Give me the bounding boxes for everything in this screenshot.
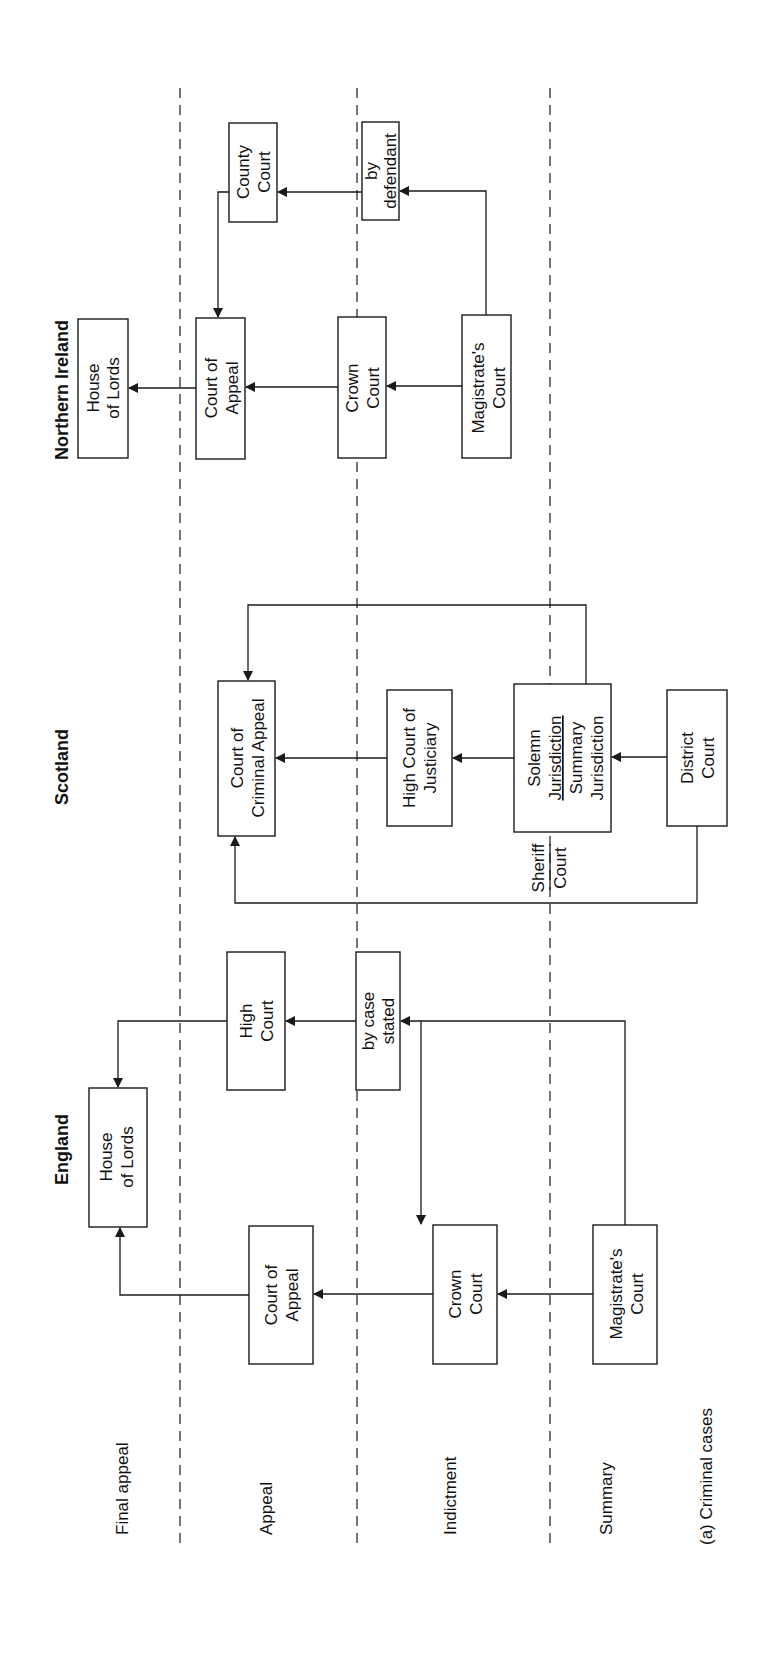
svg-text:Sheriff: Sheriff <box>529 843 548 892</box>
svg-text:Magistrate's: Magistrate's <box>607 1248 626 1339</box>
svg-text:Court: Court <box>490 367 509 409</box>
ni-by-defendant: by defendant <box>362 122 400 220</box>
arrow-court-of-appeal-to-house-of-lords <box>120 1228 249 1295</box>
arrow-magistrates-to-by-case-stated <box>401 1021 625 1225</box>
svg-text:Appeal: Appeal <box>283 1269 302 1322</box>
scotland-title: Scotland <box>52 729 72 805</box>
scotland-sheriff-court-label: Sheriff Court <box>529 843 570 892</box>
scotland-sheriff-court: Solemn Jurisdiction Summary Jurisdiction <box>514 684 611 832</box>
svg-text:County: County <box>234 145 253 199</box>
scotland-court-of-criminal-appeal: Court of Criminal Appeal <box>218 681 275 836</box>
svg-text:Summary: Summary <box>567 721 586 794</box>
svg-text:by: by <box>362 162 381 180</box>
svg-text:Criminal Appeal: Criminal Appeal <box>249 698 268 817</box>
england-by-case-stated: by case stated <box>356 952 400 1090</box>
svg-text:Court of: Court of <box>228 727 247 788</box>
svg-text:Justiciary: Justiciary <box>421 722 440 793</box>
scotland-high-court-of-justiciary: High Court of Justiciary <box>387 690 452 826</box>
lane-label-final-appeal: Final appeal <box>113 1442 132 1535</box>
svg-text:Appeal: Appeal <box>223 362 242 415</box>
svg-text:District: District <box>678 732 697 784</box>
svg-text:Court: Court <box>628 1273 647 1315</box>
arrow-ni-magistrates-to-by-defendant <box>400 191 486 315</box>
svg-text:High: High <box>237 1004 256 1039</box>
svg-text:Court: Court <box>364 367 383 409</box>
svg-text:of Lords: of Lords <box>104 357 123 418</box>
svg-text:Magistrate's: Magistrate's <box>469 342 488 433</box>
svg-text:Court: Court <box>551 847 570 889</box>
arrow-high-court-to-house-of-lords <box>118 1021 227 1087</box>
svg-text:House: House <box>97 1132 116 1181</box>
ni-house-of-lords: House of Lords <box>78 319 128 458</box>
svg-text:by case: by case <box>359 992 378 1051</box>
svg-text:defendant: defendant <box>381 133 400 209</box>
figure-caption: (a) Criminal cases <box>697 1408 716 1545</box>
england-crown-court: Crown Court <box>433 1225 497 1364</box>
svg-text:House: House <box>84 363 103 412</box>
svg-text:Crown: Crown <box>446 1269 465 1318</box>
arrow-sheriff-summary-to-court-of-criminal-appeal <box>248 605 586 684</box>
scotland-district-court: District Court <box>667 690 727 826</box>
northern-ireland-title: Northern Ireland <box>52 320 72 460</box>
ni-county-court: County Court <box>229 123 277 222</box>
svg-text:Court of: Court of <box>202 357 221 418</box>
svg-text:Jurisdiction: Jurisdiction <box>588 715 607 800</box>
england-house-of-lords: House of Lords <box>89 1088 147 1227</box>
svg-text:Court: Court <box>699 737 718 779</box>
svg-text:Court: Court <box>255 151 274 193</box>
svg-text:stated: stated <box>379 998 398 1044</box>
england-high-court: High Court <box>227 952 285 1090</box>
svg-text:Court of: Court of <box>262 1264 281 1325</box>
england-court-of-appeal: Court of Appeal <box>249 1226 313 1364</box>
svg-text:of Lords: of Lords <box>118 1126 137 1187</box>
ni-crown-court: Crown Court <box>338 317 386 458</box>
england-title: England <box>52 1114 72 1185</box>
ni-court-of-appeal: Court of Appeal <box>196 318 245 459</box>
arrow-ni-county-court-to-court-of-appeal <box>218 192 229 317</box>
svg-text:Jurisdiction: Jurisdiction <box>546 715 565 800</box>
lane-label-appeal: Appeal <box>257 1482 276 1535</box>
svg-text:Court: Court <box>467 1273 486 1315</box>
lane-label-indictment: Indictment <box>441 1456 460 1535</box>
arrow-district-to-court-of-criminal-appeal <box>235 826 697 903</box>
svg-text:Solemn: Solemn <box>525 729 544 787</box>
svg-text:High Court of: High Court of <box>400 708 419 808</box>
svg-text:Court: Court <box>258 1000 277 1042</box>
lane-label-summary: Summary <box>597 1462 616 1535</box>
ni-magistrates-court: Magistrate's Court <box>462 315 511 458</box>
criminal-courts-diagram: Final appeal Appeal Indictment Summary (… <box>0 0 776 1659</box>
svg-text:Crown: Crown <box>343 363 362 412</box>
england-magistrates-court: Magistrate's Court <box>593 1225 657 1364</box>
